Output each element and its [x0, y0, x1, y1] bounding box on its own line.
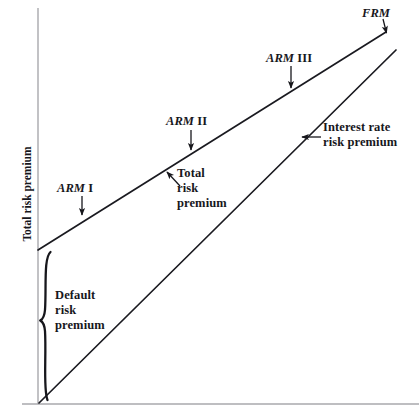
annotation-arm-ii-arm: ARM — [166, 114, 194, 128]
annotation-arm-i-arm: ARM — [57, 181, 85, 195]
annotation-arm-iii-arm: ARM — [266, 51, 294, 65]
annotation-arm-iii-roman: III — [297, 51, 312, 65]
annotation-arm-ii: ARM II — [166, 114, 207, 129]
annotation-frm: FRM — [362, 6, 390, 21]
risk-premium-diagram: Total risk premium FRM ARM III ARM II AR… — [0, 0, 419, 419]
y-axis-label: Total risk premium — [21, 119, 33, 269]
frm-leader-arrow — [383, 19, 387, 33]
default-risk-premium-brace — [40, 252, 50, 400]
annotation-total-risk-premium: Total risk premium — [177, 166, 227, 210]
annotation-interest-rate-risk-premium: Interest rate risk premium — [323, 120, 397, 150]
annotation-default-risk-premium: Default risk premium — [55, 288, 105, 332]
annotation-frm-text: FRM — [362, 6, 390, 20]
annotation-arm-iii: ARM III — [266, 51, 312, 66]
annotation-arm-i: ARM I — [57, 181, 93, 196]
annotation-arm-i-roman: I — [88, 181, 93, 195]
annotation-arm-ii-roman: II — [197, 114, 207, 128]
interest-rate-risk-premium-line — [39, 50, 396, 403]
